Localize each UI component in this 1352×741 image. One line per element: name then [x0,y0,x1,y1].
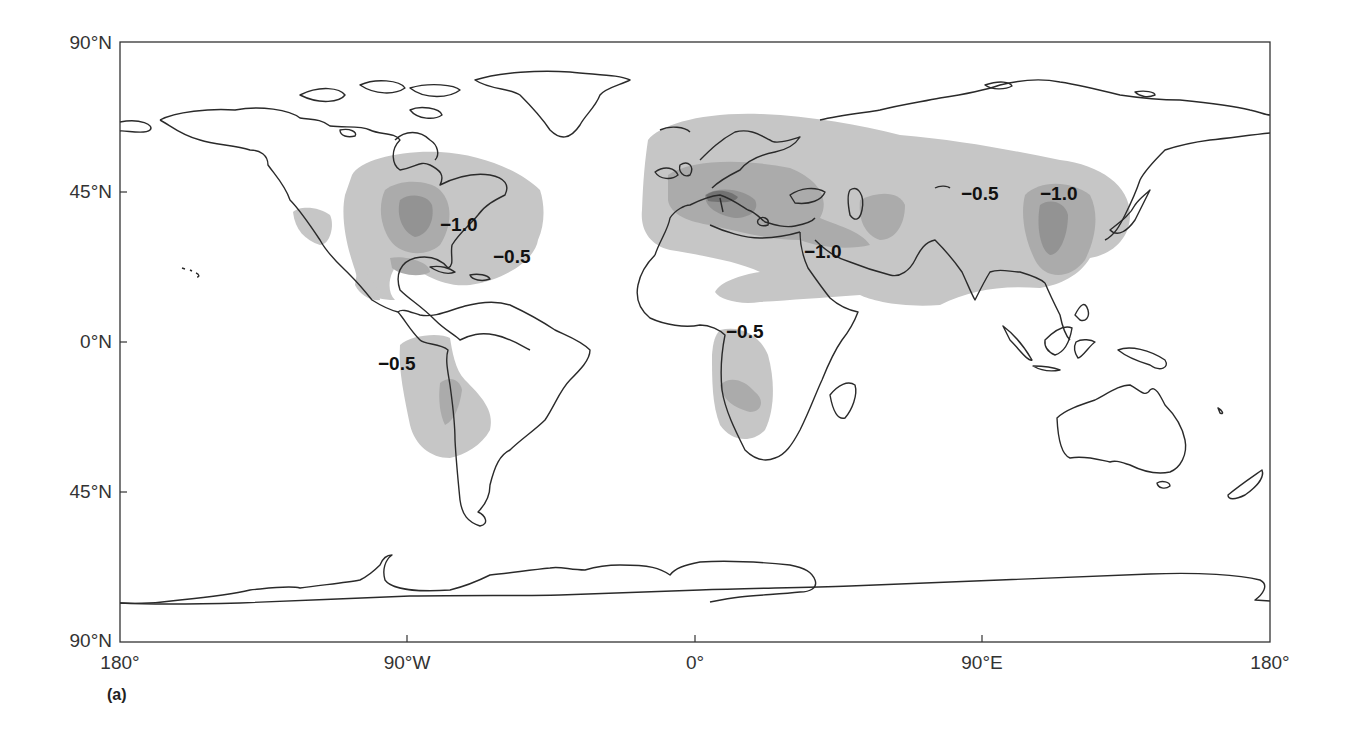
panel-label: (a) [107,686,127,704]
x-tick-label: 90°E [961,652,1002,674]
contour-label: −1.0 [804,241,842,263]
x-tick-label: 0° [686,652,704,674]
x-tick-label: 90°W [384,652,431,674]
contour-label: −1.0 [440,214,478,236]
contour-label: −0.5 [493,246,531,268]
y-tick-label: 90°N [70,630,112,652]
contour-label: −0.5 [961,183,999,205]
y-tick-label: 90°N [70,32,112,54]
contour-label: −1.0 [1040,183,1078,205]
contour-label: −0.5 [726,321,764,343]
y-tick-label: 45°N [70,181,112,203]
x-tick-label: 180° [100,652,139,674]
y-tick-label: 0°N [80,331,112,353]
contour-label: −0.5 [378,353,416,375]
y-tick-label: 45°N [70,481,112,503]
world-map [0,0,1352,741]
x-tick-label: 180° [1250,652,1289,674]
